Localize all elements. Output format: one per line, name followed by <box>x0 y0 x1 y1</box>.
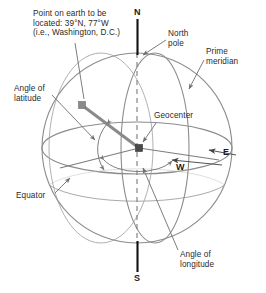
leader-geocenter <box>143 123 156 142</box>
label-east: E <box>223 148 229 158</box>
radius-to-point <box>83 106 139 148</box>
label-geocenter: Geocenter <box>154 111 193 121</box>
label-north-axis: N <box>134 8 141 18</box>
label-north-pole: North pole <box>168 29 189 48</box>
equatorial-line-to-prime-meridian <box>139 148 219 160</box>
prime-meridian-ellipse <box>121 53 189 243</box>
label-west: W <box>176 163 185 173</box>
label-angle-of-latitude: Angle of latitude <box>14 84 45 103</box>
leader-prime-meridian <box>189 60 204 89</box>
leader-angle-of-longitude <box>143 168 178 250</box>
leader-point-on-earth <box>75 43 84 99</box>
located-point-marker <box>79 102 86 109</box>
label-south-axis: S <box>134 274 140 284</box>
geocenter-marker <box>136 145 143 152</box>
label-angle-of-longitude: Angle of longitude <box>180 250 214 269</box>
label-point-on-earth: Point on earth to be located: 39°N, 77°W… <box>33 9 120 38</box>
label-prime-meridian: Prime meridian <box>206 47 238 66</box>
diagram-canvas: Point on earth to be located: 39°N, 77°W… <box>0 0 266 293</box>
latitude-angle-arc <box>98 124 107 170</box>
equatorial-line-to-point-meridian <box>60 148 139 168</box>
label-equator: Equator <box>16 191 45 201</box>
